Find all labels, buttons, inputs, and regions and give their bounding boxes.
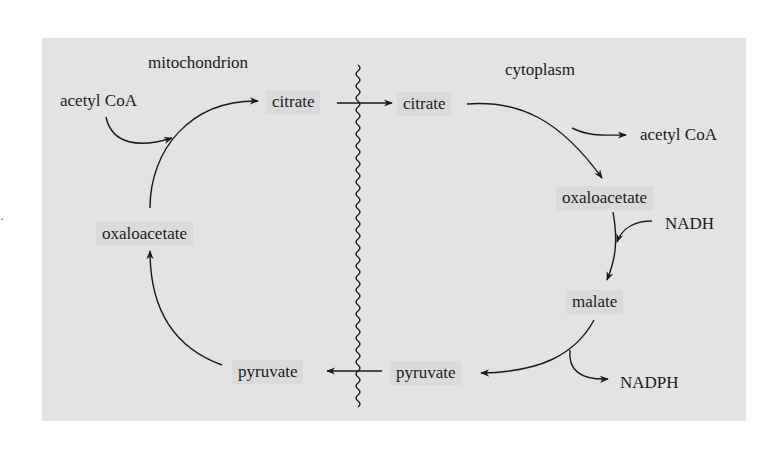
node-oxaloacetate-cyto: oxaloacetate: [556, 186, 653, 210]
node-acetyl-coa-cyto: acetyl CoA: [640, 125, 717, 145]
node-citrate-cyto: citrate: [397, 92, 451, 116]
node-pyruvate-mito: pyruvate: [232, 360, 303, 384]
node-malate: malate: [566, 290, 623, 314]
membrane-line: [356, 65, 360, 407]
node-oxaloacetate-mito: oxaloacetate: [96, 222, 193, 246]
node-pyruvate-cyto: pyruvate: [390, 361, 461, 385]
compartment-label-mitochondrion: mitochondrion: [148, 53, 248, 73]
compartment-label-cytoplasm: cytoplasm: [505, 60, 575, 80]
node-nadph: NADPH: [620, 373, 679, 393]
node-citrate-mito: citrate: [266, 90, 320, 114]
node-acetyl-coa-mito: acetyl CoA: [60, 91, 137, 111]
node-nadh: NADH: [665, 214, 714, 234]
